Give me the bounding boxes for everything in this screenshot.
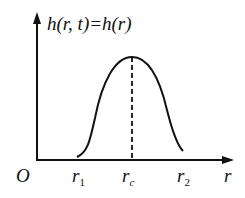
tick-label-rc: rc <box>122 165 134 188</box>
tick-label-r2: r2 <box>177 165 190 188</box>
x-axis-label: r <box>224 165 232 186</box>
y-axis-label: h(r, t)=h(r) <box>47 13 132 35</box>
x-axis-arrow-icon <box>222 156 234 164</box>
bell-curve <box>77 57 183 157</box>
origin-label: O <box>16 165 30 186</box>
y-axis-arrow-icon <box>33 12 41 24</box>
diagram-canvas: h(r, t)=h(r) O r1 rc r2 r <box>0 0 245 198</box>
tick-label-r1: r1 <box>72 165 85 188</box>
